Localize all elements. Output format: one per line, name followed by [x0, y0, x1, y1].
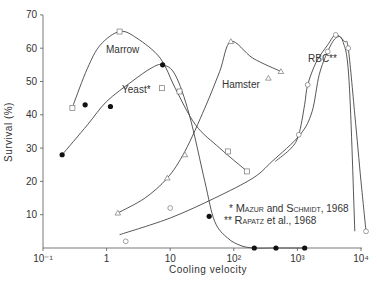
x-tick-label: 1: [104, 253, 110, 264]
yeast-data-point: [160, 62, 165, 67]
marrow-data-point: [245, 169, 250, 174]
marrow-curve: [73, 31, 247, 171]
marrow-data-point: [225, 149, 230, 154]
hamster-data-point: [278, 69, 284, 74]
hamster-data-point: [115, 210, 121, 215]
marrow-data-point: [117, 29, 122, 34]
y-tick-label: 10: [26, 209, 38, 220]
yeast-data-point: [207, 214, 212, 219]
yeast-label: Yeast*: [122, 84, 151, 95]
rbc-data-point: [123, 239, 128, 244]
marrow-data-point: [159, 86, 164, 91]
x-tick-label: 10: [165, 253, 177, 264]
legend-mazur: * MAZUR and SCHMIDT, 1968: [229, 202, 349, 214]
y-axis-label: Survival (%): [3, 102, 14, 162]
rbc-data-point: [296, 132, 301, 137]
marrow-data-point: [70, 106, 75, 111]
yeast-data-point: [60, 152, 65, 157]
marrow-data-point: [177, 89, 182, 94]
rbc-data-point: [346, 46, 351, 51]
x-tick-label: 10³: [290, 253, 305, 264]
rbc-data-point: [364, 229, 369, 234]
yeast-data-point: [302, 245, 307, 250]
y-tick-label: 30: [26, 143, 38, 154]
yeast-data-point: [108, 104, 113, 109]
rbc-data-point: [305, 82, 310, 87]
yeast-data-point: [273, 245, 278, 250]
x-tick-label: 10²: [227, 253, 242, 264]
x-tick-label: 10⁻¹: [33, 253, 53, 264]
legend-rapatz: ** RAPATZ et al., 1968: [224, 214, 317, 226]
rbc-data-point: [333, 32, 338, 37]
rbc-label: RBC**: [308, 53, 337, 64]
yeast-data-point: [252, 245, 257, 250]
yeast-data-point: [83, 102, 88, 107]
y-tick-label: 60: [26, 43, 38, 54]
y-ticks: 10203040506070: [26, 9, 43, 220]
survival-chart: 10203040506070 10⁻¹11010²10³10⁴ Survival…: [0, 0, 377, 283]
marrow-label: Marrow: [106, 44, 140, 55]
x-axis-label: Cooling velocity: [169, 264, 247, 275]
y-tick-label: 40: [26, 109, 38, 120]
hamster-data-point: [266, 75, 272, 80]
x-ticks: 10⁻¹11010²10³10⁴: [33, 248, 368, 264]
hamster-curve: [118, 41, 281, 213]
y-tick-label: 20: [26, 176, 38, 187]
rbc-data-point: [168, 206, 173, 211]
hamster-label: Hamster: [222, 79, 260, 90]
x-tick-label: 10⁴: [353, 253, 368, 264]
y-tick-label: 50: [26, 76, 38, 87]
axes: [43, 15, 362, 248]
y-tick-label: 70: [26, 9, 38, 20]
